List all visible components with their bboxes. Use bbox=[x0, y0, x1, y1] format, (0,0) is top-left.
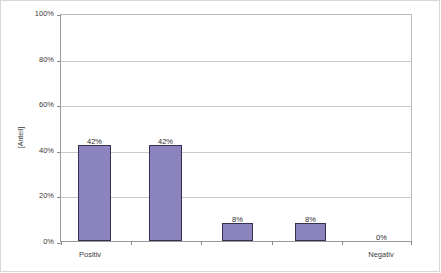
bar-label-0: 42% bbox=[71, 137, 118, 146]
gridline-80 bbox=[61, 61, 411, 62]
y-tick-mark-100 bbox=[57, 15, 61, 16]
x-tick-mark-5 bbox=[411, 241, 412, 245]
x-tick-mark-1 bbox=[131, 241, 132, 245]
x-tick-mark-4 bbox=[342, 241, 343, 245]
y-tick-mark-60 bbox=[57, 106, 61, 107]
bar-label-4: 0% bbox=[358, 233, 405, 242]
bar-chart: [Anteil] 0% 20% 40% 60% 80% 100% bbox=[0, 0, 441, 273]
y-tick-mark-20 bbox=[57, 197, 61, 198]
gridline-40 bbox=[61, 152, 411, 153]
gridline-60 bbox=[61, 106, 411, 107]
x-tick-mark-2 bbox=[201, 241, 202, 245]
bar-1[interactable] bbox=[149, 145, 182, 241]
y-tick-label-100: 100% bbox=[10, 10, 54, 18]
bar-3[interactable] bbox=[295, 223, 326, 241]
bar-label-3: 8% bbox=[287, 215, 334, 224]
plot-area: 42% 42% 8% 8% 0% bbox=[60, 14, 412, 242]
bar-2[interactable] bbox=[222, 223, 253, 241]
y-tick-label-80: 80% bbox=[10, 56, 54, 64]
bar-label-1: 42% bbox=[142, 137, 189, 146]
y-tick-label-40: 40% bbox=[10, 147, 54, 155]
y-tick-label-0: 0% bbox=[10, 238, 54, 246]
x-axis-label-negativ: Negativ bbox=[346, 250, 416, 259]
y-tick-mark-40 bbox=[57, 152, 61, 153]
gridline-20 bbox=[61, 197, 411, 198]
bar-0[interactable] bbox=[78, 145, 111, 241]
y-tick-label-60: 60% bbox=[10, 101, 54, 109]
bar-label-2: 8% bbox=[214, 215, 261, 224]
x-axis-label-positiv: Positiv bbox=[55, 250, 125, 259]
y-tick-label-20: 20% bbox=[10, 192, 54, 200]
x-tick-mark-0 bbox=[61, 241, 62, 245]
y-tick-mark-80 bbox=[57, 61, 61, 62]
x-tick-mark-3 bbox=[272, 241, 273, 245]
